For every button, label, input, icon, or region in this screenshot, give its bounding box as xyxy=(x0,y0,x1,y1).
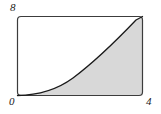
x-axis-max-label: 4 xyxy=(146,96,152,107)
y-axis-max-label: 8 xyxy=(10,2,16,13)
x-axis-min-label: 0 xyxy=(9,96,15,107)
figure-container: 8 0 4 xyxy=(0,0,161,114)
shaded-area-under-curve xyxy=(18,17,143,96)
area-chart-plot xyxy=(0,0,161,114)
